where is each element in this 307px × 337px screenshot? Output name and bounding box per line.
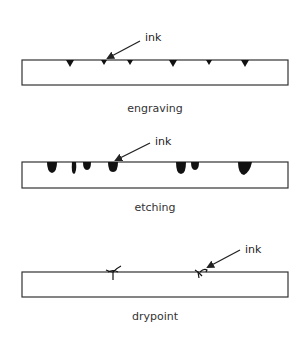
engraving-ink-arrow (108, 41, 140, 58)
etching-ink-label: ink (155, 135, 172, 148)
drypoint-plate (22, 272, 288, 297)
printmaking-diagram: ink engraving ink etching ink (0, 0, 307, 337)
etching-ink-arrow (116, 143, 150, 160)
engraving-panel: ink engraving (22, 31, 288, 115)
drypoint-ink-arrow (208, 250, 240, 267)
drypoint-burr-marks (106, 266, 207, 280)
engraving-ink-label: ink (145, 31, 162, 44)
drypoint-panel: ink drypoint (22, 243, 288, 323)
engraving-caption: engraving (127, 102, 183, 115)
engraving-plate (22, 60, 288, 85)
etching-ink-marks (47, 162, 252, 175)
engraving-ink-marks (66, 60, 249, 67)
etching-panel: ink etching (22, 135, 288, 214)
drypoint-ink-label: ink (245, 243, 262, 256)
drypoint-caption: drypoint (132, 310, 179, 323)
etching-caption: etching (134, 201, 175, 214)
